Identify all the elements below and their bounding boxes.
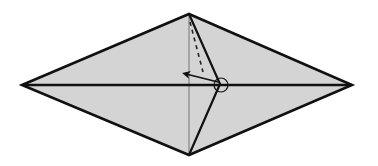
diagram-canvas bbox=[0, 0, 378, 166]
